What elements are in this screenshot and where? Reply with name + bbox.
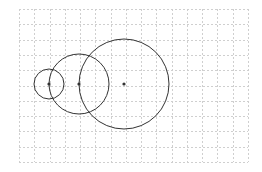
center-large-dot [122, 82, 125, 85]
center-medium-dot [77, 82, 80, 85]
center-points [47, 82, 125, 85]
circles [34, 39, 169, 129]
diagram-canvas [0, 0, 262, 172]
grid [19, 9, 249, 163]
center-small-dot [47, 82, 50, 85]
